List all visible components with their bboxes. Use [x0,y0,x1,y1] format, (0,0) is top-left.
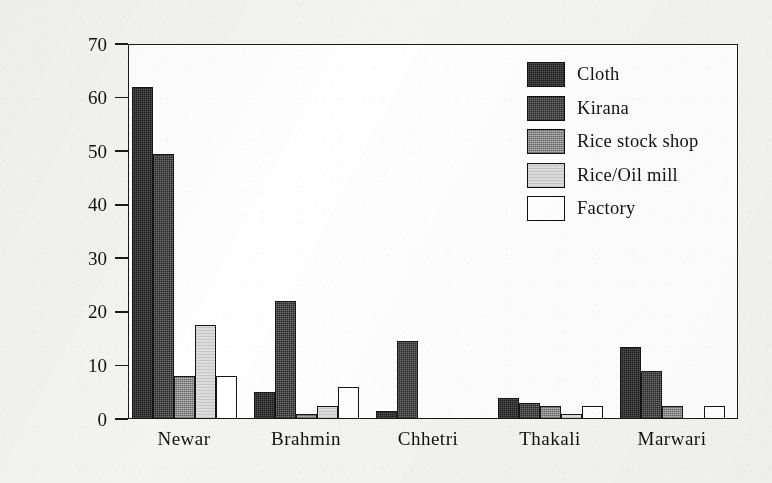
y-axis-tick-mark [115,43,128,45]
bar-thakali-rice-stock-shop [540,406,561,419]
legend-item-cloth: Cloth [527,62,699,87]
legend-item-rice-oil-mill: Rice/Oil mill [527,163,699,188]
bar-marwari-cloth [620,347,641,419]
y-axis-tick-label: 20 [88,302,107,321]
bar-chart-figure: Number of Businesses 706050403020100 New… [0,0,772,483]
bar-chhetri-cloth [376,411,397,419]
y-axis-tick-mark [115,257,128,259]
x-axis-label-newar: Newar [157,428,210,450]
legend-swatch-kirana [527,96,565,121]
y-axis-tick-label: 30 [88,249,107,268]
bar-thakali-rice-oil-mill [561,414,582,419]
y-axis-tick-mark [115,365,128,367]
legend-swatch-rice-oil-mill [527,163,565,188]
y-axis-tick-mark [115,150,128,152]
bar-brahmin-kirana [275,301,296,419]
bar-brahmin-rice-stock-shop [296,414,317,419]
bar-group-newar [132,44,237,419]
legend-label: Kirana [577,99,629,118]
legend-swatch-factory [527,196,565,221]
bar-group-brahmin [254,44,359,419]
bar-newar-factory [216,376,237,419]
chart-legend: ClothKiranaRice stock shopRice/Oil millF… [527,62,699,221]
legend-label: Rice/Oil mill [577,166,678,185]
bar-thakali-factory [582,406,603,419]
y-axis-tick-label: 10 [88,356,107,375]
legend-item-rice-stock-shop: Rice stock shop [527,129,699,154]
bar-brahmin-factory [338,387,359,419]
bar-thakali-kirana [519,403,540,419]
y-axis-tick-mark [115,97,128,99]
legend-item-factory: Factory [527,196,699,221]
bar-newar-cloth [132,87,153,419]
y-axis-tick-label: 40 [88,195,107,214]
y-axis-tick-mark [115,418,128,420]
bar-marwari-kirana [641,371,662,419]
y-axis-tick-label: 0 [98,410,108,429]
bar-marwari-rice-stock-shop [662,406,683,419]
y-axis-tick-label: 50 [88,142,107,161]
y-axis-tick-label: 60 [88,88,107,107]
legend-label: Cloth [577,65,620,84]
bar-newar-rice-oil-mill [195,325,216,419]
legend-label: Rice stock shop [577,132,699,151]
x-axis-label-brahmin: Brahmin [271,428,341,450]
legend-item-kirana: Kirana [527,96,699,121]
bar-group-chhetri [376,44,481,419]
y-axis-tick-label: 70 [88,35,107,54]
bar-marwari-factory [704,406,725,419]
bar-newar-rice-stock-shop [174,376,195,419]
bar-chhetri-kirana [397,341,418,419]
bar-thakali-cloth [498,398,519,419]
x-axis-label-thakali: Thakali [519,428,581,450]
y-axis-tick-mark [115,311,128,313]
y-axis-title: Number of Businesses [8,0,44,80]
legend-swatch-cloth [527,62,565,87]
bar-brahmin-rice-oil-mill [317,406,338,419]
bar-newar-kirana [153,154,174,419]
x-axis-label-marwari: Marwari [638,428,707,450]
legend-swatch-rice-stock-shop [527,129,565,154]
x-axis-label-chhetri: Chhetri [398,428,459,450]
legend-label: Factory [577,199,636,218]
y-axis-tick-mark [115,204,128,206]
bar-brahmin-cloth [254,392,275,419]
